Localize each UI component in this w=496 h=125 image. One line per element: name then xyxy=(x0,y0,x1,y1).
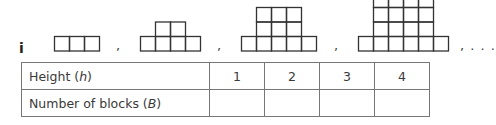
table-row-blocks: Number of blocks (B) xyxy=(22,90,430,117)
label-text: ) xyxy=(87,69,92,84)
blocks-answer-cell-3[interactable] xyxy=(320,90,375,117)
separator-ellipsis: , . . . xyxy=(460,38,496,53)
pattern-height-2 xyxy=(141,22,201,51)
variable-h: h xyxy=(79,69,87,84)
blocks-answer-cell-2[interactable] xyxy=(265,90,320,117)
blocks-answer-cell-4[interactable] xyxy=(375,90,430,117)
label-text: Height ( xyxy=(29,69,79,84)
pattern-height-1 xyxy=(55,37,100,52)
row-label-blocks: Number of blocks (B) xyxy=(22,90,210,117)
pattern-height-3 xyxy=(242,8,317,52)
separator-comma-2: , xyxy=(217,38,221,53)
block-pattern-figures xyxy=(0,0,496,60)
height-cell-3: 3 xyxy=(320,63,375,90)
separator-comma-1: , xyxy=(116,38,120,53)
height-cell-1: 1 xyxy=(210,63,265,90)
pattern-height-4 xyxy=(359,0,449,51)
blocks-answer-cell-1[interactable] xyxy=(210,90,265,117)
height-blocks-table: Height (h) 1 2 3 4 Number of blocks (B) xyxy=(21,62,430,117)
height-cell-2: 2 xyxy=(265,63,320,90)
row-label-height: Height (h) xyxy=(22,63,210,90)
label-text: ) xyxy=(156,96,161,111)
height-cell-4: 4 xyxy=(375,63,430,90)
table-row-height: Height (h) 1 2 3 4 xyxy=(22,63,430,90)
block-patterns xyxy=(0,0,496,60)
label-text: Number of blocks ( xyxy=(29,96,148,111)
separator-comma-3: , xyxy=(334,38,338,53)
